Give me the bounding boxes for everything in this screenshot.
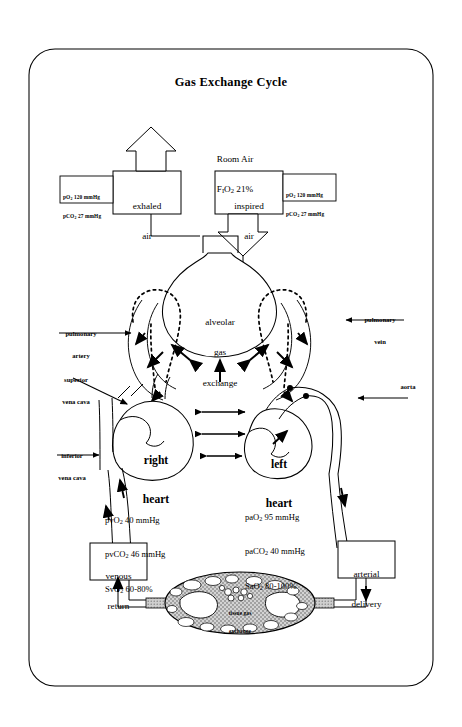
- superior-vena-cava-label: superior vena cava: [48, 361, 104, 420]
- inspired-pco2: pCO2 27 mmHg: [286, 211, 335, 218]
- diagram-canvas: Gas Exchange Cycle Room Air FIO2 21% exh…: [0, 0, 462, 727]
- exhaled-arrow: [126, 127, 176, 171]
- venous-return-line2: return: [90, 601, 147, 611]
- arterial-delivery-label: arterial delivery: [338, 548, 395, 630]
- tissue-line1: tissue gas: [208, 610, 272, 616]
- page-title: Gas Exchange Cycle: [131, 76, 331, 90]
- arterial-pao2: paO2 95 mmHg: [245, 512, 370, 524]
- venous-return-label: venous return: [90, 550, 147, 632]
- pulmonary-vein-label: pulmonary vein: [352, 301, 408, 360]
- exhaled-line1: exhaled: [113, 201, 181, 211]
- pulmonary-artery-line1: pulmonary: [52, 330, 110, 337]
- pulmonary-vein-line1: pulmonary: [352, 316, 408, 323]
- arterial-delivery-line2: delivery: [338, 599, 395, 609]
- pulmonary-artery-line2: artery: [52, 352, 110, 359]
- aorta-label: aorta: [386, 383, 430, 390]
- exhaled-pco2: pCO2 27 mmHg: [63, 213, 112, 220]
- pulmonary-vein-line2: vein: [352, 338, 408, 345]
- exhaled-po2: pO2 120 mmHg: [63, 194, 112, 201]
- exhaled-gas-values: pO2 120 mmHg pCO2 27 mmHg: [63, 182, 112, 233]
- inspired-po2: pO2 120 mmHg: [286, 192, 335, 199]
- venous-pvo2: pvO2 40 mmHg: [105, 515, 225, 527]
- inspired-gas-values: pO2 120 mmHg pCO2 27 mmHg: [286, 180, 335, 231]
- room-air-line1: Room Air: [183, 154, 287, 164]
- venous-return-line1: venous: [90, 571, 147, 581]
- right-heart-line1: right: [125, 454, 187, 467]
- left-heart-line1: left: [251, 458, 307, 471]
- superior-vena-cava-line1: superior: [48, 376, 104, 383]
- inferior-vena-cava-line1: inferior: [44, 452, 100, 459]
- alveolar-line1: alveolar: [184, 317, 256, 327]
- inspired-air-label: inspired air: [215, 180, 283, 262]
- alveolar-line3: exchange: [184, 378, 256, 388]
- alveolar-line2: gas: [184, 347, 256, 357]
- inferior-vena-cava-line2: vena cava: [44, 474, 100, 481]
- inspired-line1: inspired: [215, 201, 283, 211]
- inspired-line2: air: [215, 231, 283, 241]
- arterial-delivery-line1: arterial: [338, 569, 395, 579]
- exhaled-air-label: exhaled air: [113, 180, 181, 262]
- exhaled-line2: air: [113, 231, 181, 241]
- inferior-vena-cava-label: inferior vena cava: [44, 437, 100, 496]
- tissue-label: tissue gas exchange: [208, 598, 272, 646]
- tissue-line2: exchange: [208, 628, 272, 634]
- superior-vena-cava-line2: vena cava: [48, 398, 104, 405]
- alveolar-label: alveolar gas exchange: [184, 296, 256, 409]
